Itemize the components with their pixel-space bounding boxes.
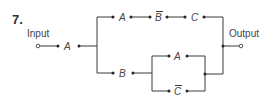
switch-top-c: C xyxy=(191,12,199,23)
contact-dot xyxy=(168,90,171,93)
problem-number: 7. xyxy=(12,12,23,27)
contact-dot xyxy=(168,55,171,58)
contact-dot xyxy=(112,16,115,19)
contact-dot xyxy=(184,16,187,19)
switch-top-a: A xyxy=(118,12,126,23)
contact-dot xyxy=(112,72,115,75)
output-terminal xyxy=(239,44,243,48)
output-label: Output xyxy=(229,28,259,39)
switch-top-b-bar: B xyxy=(155,12,162,23)
switch-parallel-a: A xyxy=(173,51,181,62)
switch-parallel-c-bar: C xyxy=(174,86,182,97)
switch-bottom-b: B xyxy=(119,68,126,79)
switching-circuit-diagram: 7. Input A A B C Output B A C xyxy=(0,0,270,102)
switch-main-a: A xyxy=(63,41,71,52)
contact-dot xyxy=(57,45,60,48)
input-label: Input xyxy=(27,28,49,39)
contact-dot xyxy=(149,16,152,19)
input-terminal xyxy=(36,44,40,48)
